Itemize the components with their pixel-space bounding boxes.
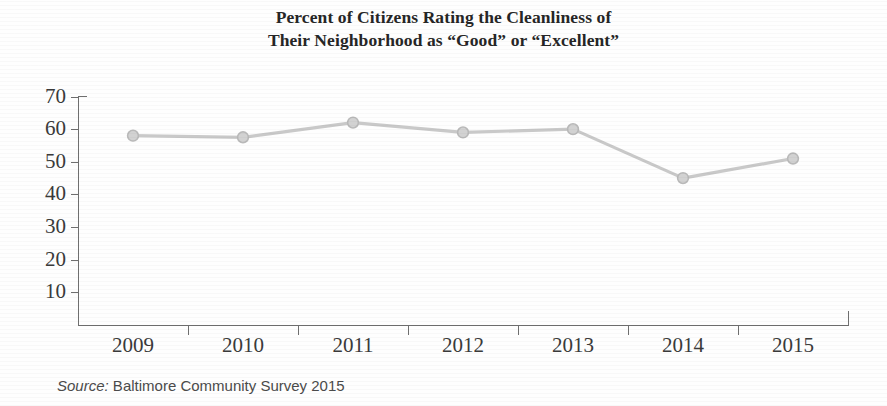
x-axis-tick-label: 2009 [88,333,178,357]
x-axis-tick [518,325,519,335]
y-axis-tick-label: 40 [22,183,66,204]
chart-figure: Percent of Citizens Rating the Cleanline… [0,0,887,406]
chart-title-line-1: Percent of Citizens Rating the Cleanline… [0,6,887,29]
data-point-marker [128,130,139,141]
data-point-marker [568,124,579,135]
y-axis-tick [71,227,79,228]
y-axis-tick-label: 10 [22,281,66,302]
series-markers [128,117,799,183]
data-point-marker [678,173,689,184]
data-point-marker [788,153,799,164]
y-axis-tick-label: 30 [22,216,66,237]
x-axis-tick-label: 2014 [638,333,728,357]
y-axis-tick-labels: 10203040506070 [0,0,66,406]
x-axis-tick [408,325,409,335]
source-label: Source: [57,377,109,394]
y-axis-top-cap [78,96,87,97]
x-axis-tick [298,325,299,335]
source-text: Baltimore Community Survey 2015 [109,377,345,394]
x-axis-tick [738,325,739,335]
y-axis-tick [71,162,79,163]
series-line [133,123,793,179]
x-axis-tick-label: 2013 [528,333,618,357]
y-axis-tick-label: 20 [22,249,66,270]
y-axis-tick-label: 60 [22,118,66,139]
data-point-marker [348,117,359,128]
x-axis-tick [188,325,189,335]
y-axis-tick [71,292,79,293]
y-axis-tick [71,194,79,195]
x-axis-line [78,325,849,326]
x-axis-tick [628,325,629,335]
data-point-marker [458,127,469,138]
chart-title-line-2: Their Neighborhood as “Good” or “Excelle… [0,29,887,52]
source-note: Source: Baltimore Community Survey 2015 [57,377,345,395]
y-axis-tick-label: 70 [22,86,66,107]
x-axis-tick-label: 2011 [308,333,398,357]
x-axis-tick-label: 2015 [748,333,838,357]
chart-title: Percent of Citizens Rating the Cleanline… [0,6,887,52]
x-axis-end-cap [848,311,849,326]
y-axis-tick [71,129,79,130]
data-point-marker [238,132,249,143]
x-axis-tick-label: 2010 [198,333,288,357]
y-axis-tick [71,260,79,261]
x-axis-tick-label: 2012 [418,333,508,357]
y-axis-tick-label: 50 [22,151,66,172]
y-axis-tick [71,97,79,98]
